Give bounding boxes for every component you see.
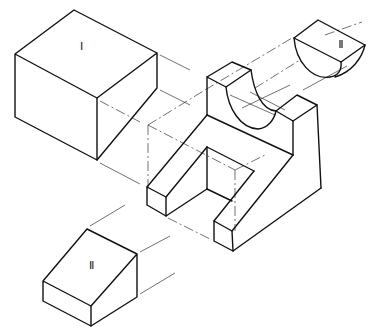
main-body	[147, 62, 321, 251]
part-I-label: Ⅰ	[80, 41, 83, 52]
exploded-isometric-drawing	[0, 0, 375, 336]
part-I-block	[15, 10, 157, 160]
part-II-wedge	[43, 229, 137, 326]
part-III-label: Ⅲ	[339, 40, 343, 48]
part-II-label: Ⅱ	[89, 260, 94, 271]
part-III-half-cylinder	[294, 20, 365, 77]
projection-lines	[90, 22, 362, 294]
